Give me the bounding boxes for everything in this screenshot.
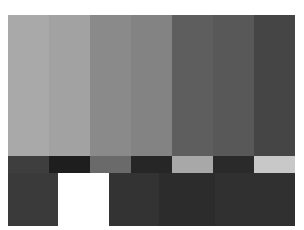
test-pattern — [8, 15, 295, 226]
bar-1 — [8, 15, 49, 156]
mid-3 — [90, 156, 131, 173]
mid-6 — [213, 156, 254, 173]
middle-bars — [8, 156, 295, 173]
bottom-1 — [8, 173, 58, 226]
bar-7 — [254, 15, 295, 156]
top-bars — [8, 15, 295, 156]
mid-2 — [49, 156, 90, 173]
bar-6 — [213, 15, 254, 156]
bottom-5 — [215, 173, 295, 226]
mid-7 — [254, 156, 295, 173]
mid-5 — [172, 156, 213, 173]
bar-4 — [131, 15, 172, 156]
bottom-4 — [159, 173, 215, 226]
bar-2 — [49, 15, 90, 156]
mid-4 — [131, 156, 172, 173]
bottom-3 — [109, 173, 159, 226]
mid-1 — [8, 156, 49, 173]
bottom-white — [58, 173, 109, 226]
bar-5 — [172, 15, 213, 156]
bar-3 — [90, 15, 131, 156]
bottom-blocks — [8, 173, 295, 226]
